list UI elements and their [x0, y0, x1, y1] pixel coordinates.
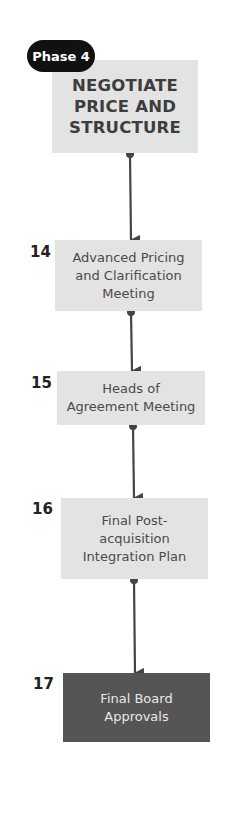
- step-number: 17: [33, 675, 54, 693]
- arrow-15-to-16: [129, 422, 137, 498]
- arrow-16-to-17: [130, 576, 138, 673]
- step-box-advanced-pricing: Advanced Pricing and Clarification Meeti…: [55, 240, 202, 311]
- phase-title-line: PRICE AND: [69, 96, 181, 117]
- step-number: 15: [31, 374, 52, 392]
- phase-badge: Phase 4: [27, 40, 95, 72]
- step-text-line: Final Board: [100, 690, 172, 708]
- step-text-line: Approvals: [100, 708, 172, 726]
- step-number: 14: [30, 243, 51, 261]
- step-text-line: Meeting: [72, 285, 184, 303]
- step-text-line: Heads of: [67, 380, 196, 398]
- step-box-board-approvals: Final Board Approvals: [63, 673, 210, 742]
- step-box-heads-of-agreement: Heads of Agreement Meeting: [57, 371, 205, 425]
- step-text-line: acquisition: [83, 530, 186, 548]
- phase-title-line: STRUCTURE: [69, 117, 181, 138]
- step-text-line: Agreement Meeting: [67, 398, 196, 416]
- step-text-line: and Clarification: [72, 267, 184, 285]
- arrow-header-to-14: [126, 150, 134, 240]
- arrow-14-to-15: [127, 308, 135, 371]
- step-box-integration-plan: Final Post- acquisition Integration Plan: [61, 498, 208, 579]
- phase-title-line: NEGOTIATE: [69, 75, 181, 96]
- step-text-line: Advanced Pricing: [72, 249, 184, 267]
- step-number: 16: [32, 500, 53, 518]
- step-text-line: Integration Plan: [83, 548, 186, 566]
- phase-title-box: NEGOTIATE PRICE AND STRUCTURE: [52, 60, 198, 153]
- step-text-line: Final Post-: [83, 512, 186, 530]
